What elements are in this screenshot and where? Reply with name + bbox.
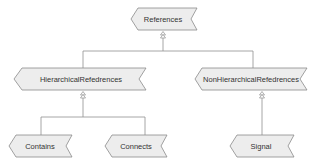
node-signal[interactable]: Signal (230, 135, 294, 157)
node-label: References (144, 15, 183, 24)
node-connects[interactable]: Connects (105, 135, 167, 157)
reference-hierarchy-diagram: References HierarchicalRefedrences NonHi… (0, 0, 320, 167)
node-references[interactable]: References (131, 8, 197, 30)
node-label: HierarchicalRefedrences (40, 75, 122, 84)
node-label: NonHierarchicalRefedrences (203, 75, 299, 84)
node-label: Contains (25, 142, 55, 151)
node-label: Signal (251, 142, 272, 151)
node-non-hierarchical-references[interactable]: NonHierarchicalRefedrences (195, 68, 307, 90)
node-label: Connects (120, 142, 152, 151)
node-hierarchical-references[interactable]: HierarchicalRefedrences (14, 68, 146, 90)
node-contains[interactable]: Contains (9, 135, 72, 157)
